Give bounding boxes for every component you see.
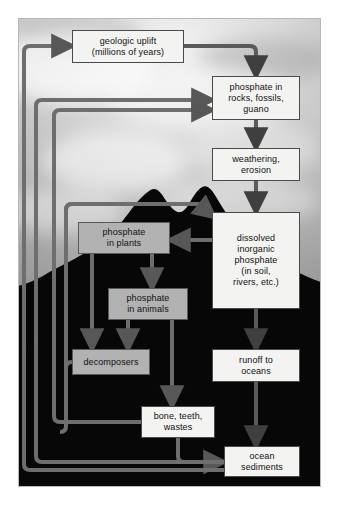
node-bone-teeth-wastes: bone, teeth,wastes bbox=[141, 406, 215, 438]
node-phosphate-in-plants: phosphatein plants bbox=[78, 222, 170, 254]
node-geologic-uplift: geologic uplift(millions of years) bbox=[72, 30, 184, 63]
node-decomposers: decomposers bbox=[72, 349, 150, 375]
node-ocean-sediments: oceansediments bbox=[224, 446, 300, 477]
node-dissolved-inorganic-phosphate: dissolvedinorganicphosphate(in soil,rive… bbox=[212, 212, 300, 309]
node-phosphate-in-rocks: phosphate inrocks, fossils,guano bbox=[212, 76, 300, 120]
figure-canvas: geologic uplift(millions of years) phosp… bbox=[0, 0, 339, 512]
node-phosphate-in-animals: phosphatein animals bbox=[108, 288, 188, 320]
node-weathering-erosion: weathering,erosion bbox=[212, 148, 300, 181]
node-runoff-to-oceans: runoff tooceans bbox=[212, 349, 300, 382]
